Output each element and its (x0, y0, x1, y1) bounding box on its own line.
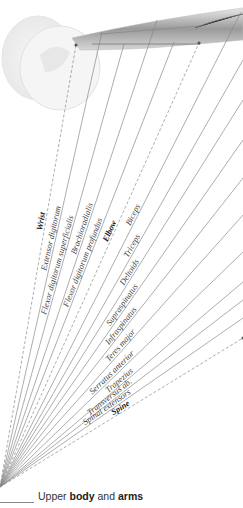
hand-illustration (2, 16, 100, 110)
leader-line (0, 43, 199, 487)
muscle-label: Deltoids (117, 257, 142, 288)
caption-rule (0, 502, 34, 503)
anatomy-diagram: WristExtensor digitorumFlexor digitorum … (0, 0, 243, 508)
forearm-illustration (72, 8, 243, 50)
muscle-labels: WristExtensor digitorumFlexor digitorum … (34, 201, 142, 427)
diagram-caption: Upper body and arms (38, 490, 143, 502)
leader-line (0, 100, 243, 487)
muscle-label: Wrist (34, 211, 47, 231)
muscle-label: Triceps (121, 232, 142, 259)
muscle-label: Biceps (123, 202, 142, 227)
